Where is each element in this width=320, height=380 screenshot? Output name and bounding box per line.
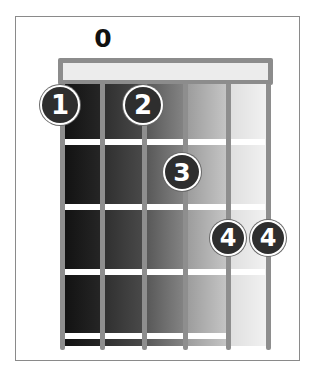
finger-marker-4b: 4 — [252, 222, 284, 254]
open-string-marker: 0 — [88, 24, 118, 54]
finger-marker-4a: 4 — [212, 222, 244, 254]
nut — [58, 58, 273, 85]
fretboard-column-1 — [62, 84, 102, 346]
finger-marker-1: 1 — [42, 87, 78, 123]
string-2 — [100, 84, 105, 350]
string-5 — [226, 84, 231, 350]
string-6 — [266, 84, 271, 350]
fretboard-column-4 — [185, 84, 228, 346]
string-4 — [183, 84, 188, 350]
fretboard-column-3 — [144, 84, 185, 346]
fret-2 — [65, 204, 265, 210]
fretboard-column-2 — [102, 84, 144, 346]
fret-4 — [65, 333, 228, 339]
fret-3 — [65, 269, 265, 275]
fret-1 — [65, 139, 265, 145]
fretboard-column-5 — [228, 84, 268, 346]
string-3 — [142, 84, 147, 350]
fretboard — [62, 84, 270, 350]
finger-marker-3: 3 — [165, 155, 199, 189]
finger-marker-2: 2 — [125, 87, 161, 123]
nut-inner — [63, 63, 268, 80]
string-1 — [60, 84, 65, 350]
